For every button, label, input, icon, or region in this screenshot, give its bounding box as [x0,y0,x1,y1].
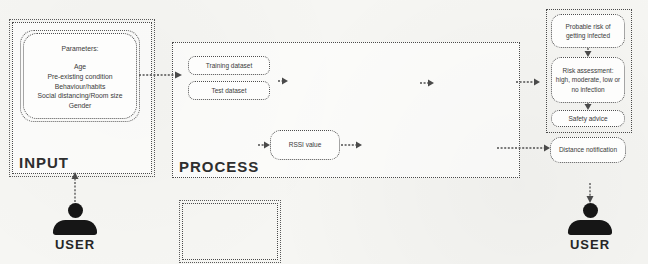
rssi-value-box: RSSI value [270,130,340,160]
user-label: USER [558,237,622,252]
parameters-box: Parameters: Age Pre-existing condition B… [23,33,137,119]
user-icon [68,203,83,218]
input-block: Parameters: Age Pre-existing condition B… [12,22,152,174]
distance-notification-box: Distance notification [550,137,626,163]
user-icon [583,203,598,218]
parameter-item: Pre-existing condition [48,72,113,82]
connector-output-to-user [587,183,594,203]
user-icon-body [568,220,612,235]
input-user: USER [43,203,107,252]
safety-advice-box: Safety advice [551,110,625,127]
parameter-item: Gender [69,101,92,111]
parameter-item: Behaviour/habits [55,82,106,92]
parameters-title: Parameters: [61,44,98,54]
output-user: USER [558,203,622,252]
input-label: INPUT [19,154,69,171]
test-dataset-box: Test dataset [188,81,270,100]
parameter-item: Age [74,62,86,72]
user-label: USER [43,237,107,252]
risk-assessment-box: Risk assessment: high, moderate, low or … [551,57,625,103]
parameter-item: Social distancing/Room size [37,91,122,101]
connector-user-to-input [72,172,79,202]
training-dataset-box: Training dataset [188,56,270,75]
process-label: PROCESS [179,158,259,175]
flow-diagram: Parameters: Age Pre-existing condition B… [0,0,648,264]
user-icon-body [53,220,97,235]
datasets-container [182,203,278,260]
probable-risk-box: Probable risk of getting infected [551,14,625,48]
